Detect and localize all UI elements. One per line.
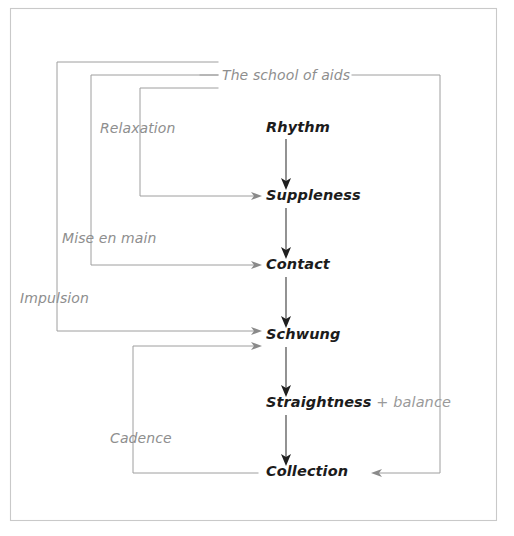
aid-label-cadence: Cadence	[110, 430, 172, 446]
node-label-contact: Contact	[266, 256, 331, 272]
school-of-aids-diagram: The school of aids Relaxation Mise en ma…	[0, 0, 514, 536]
node-label-schwung: Schwung	[266, 326, 340, 342]
node-label-straightness: Straightness + balance	[266, 394, 451, 410]
aid-label-relaxation: Relaxation	[100, 120, 176, 136]
aid-label-school-of-aids: The school of aids	[222, 67, 350, 83]
diagram-root: The school of aids Relaxation Mise en ma…	[0, 0, 514, 536]
node-label-collection: Collection	[266, 463, 348, 479]
aid-label-impulsion: Impulsion	[20, 290, 89, 306]
node-label-straightness-main: Straightness	[266, 394, 372, 410]
node-label-straightness-suffix: + balance	[372, 394, 451, 410]
node-label-suppleness: Suppleness	[266, 187, 361, 203]
node-label-rhythm: Rhythm	[266, 119, 330, 135]
aid-label-mise-en-main: Mise en main	[62, 230, 156, 246]
